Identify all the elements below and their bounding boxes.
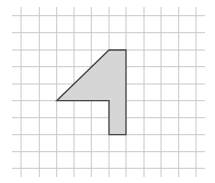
grid-diagram xyxy=(0,0,215,183)
